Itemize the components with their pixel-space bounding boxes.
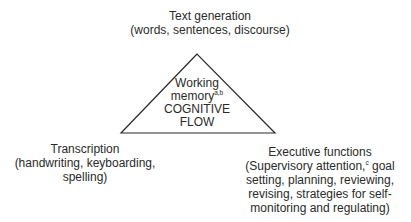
transcription-node: Transcription (handwriting, keyboarding,… xyxy=(10,142,160,184)
executive-line-4: monitoring and regulating) xyxy=(235,201,405,215)
executive-line-3: revising, strategies for self- xyxy=(235,187,405,201)
working-memory-node: Working memorya,b COGNITIVE FLOW xyxy=(147,77,247,129)
executive-line-1: (Supervisory attention,c goal xyxy=(235,159,405,173)
text-generation-node: Text generation (words, sentences, disco… xyxy=(105,9,315,37)
transcription-line-2: spelling) xyxy=(10,170,160,184)
executive-functions-node: Executive functions (Supervisory attenti… xyxy=(235,145,405,215)
transcription-line-1: (handwriting, keyboarding, xyxy=(10,156,160,170)
transcription-title: Transcription xyxy=(10,142,160,156)
center-line-4: FLOW xyxy=(147,116,247,129)
executive-title: Executive functions xyxy=(235,145,405,159)
executive-line-2: setting, planning, reviewing, xyxy=(235,173,405,187)
text-generation-title: Text generation xyxy=(105,9,315,23)
footnote-ab: a,b xyxy=(214,89,223,96)
text-generation-detail: (words, sentences, discourse) xyxy=(105,23,315,37)
